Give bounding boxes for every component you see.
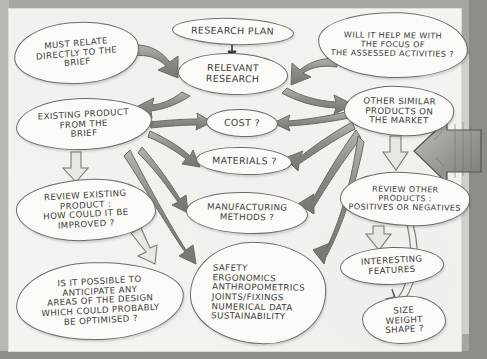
node-safety-considerations-list-label: SAFETY ERGONOMICS ANTHROPOMETRICS JOINTS… [211,263,306,322]
node-research-plan-label: RESEARCH PLAN [191,26,274,38]
node-size-weight-shape-label: SIZE WEIGHT SHAPE ? [384,304,423,335]
node-review-other-products-label: REVIEW OTHER PRODUCTS : POSITIVES OR NEG… [348,185,461,213]
background-bottom-strip [0,351,487,359]
node-will-it-help-label: WILL IT HELP ME WITH THE FOCUS OF THE AS… [331,31,455,60]
node-manufacturing-methods-label: MANUFACTURING METHODS ? [207,203,288,223]
node-review-existing-product-label: REVIEW EXISTING PRODUCT : HOW COULD IT B… [43,188,130,231]
background-left-strip [0,0,9,359]
node-must-relate-label: MUST RELATE DIRECTLY TO THE BRIEF [35,35,118,71]
node-relevant-research-label: RELEVANT RESEARCH [206,63,260,85]
node-other-similar-products-label: OTHER SIMILAR PRODUCTS ON THE MARKET [362,96,436,126]
node-materials-label: MATERIALS ? [211,155,276,166]
node-interesting-features-label: INTERESTING FEATURES [361,255,423,278]
node-existing-product-label: EXISTING PRODUCT FROM THE BRIEF [38,107,130,141]
background-right-strip [469,0,487,359]
node-cost-label: COST ? [224,117,260,128]
screenshot-canvas: MUST RELATE DIRECTLY TO THE BRIEF RESEAR… [0,0,487,359]
node-is-it-possible-to-anticipate-label: IS IT POSSIBLE TO ANTICIPATE ANY AREAS O… [40,274,160,329]
